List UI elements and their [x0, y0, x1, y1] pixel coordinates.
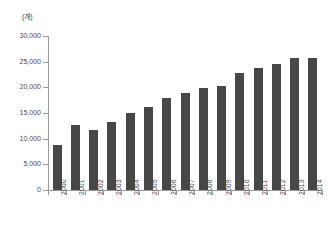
x-axis-tick-label: 2010 — [243, 179, 250, 195]
y-axis-tick-label: 10,000 — [1, 135, 41, 142]
x-axis-tick-label: 2008 — [206, 179, 213, 195]
y-axis-tick-label-wrap: 25,000 — [0, 58, 41, 66]
bar — [162, 98, 171, 190]
y-axis-tick-label-wrap: 5,000 — [0, 160, 41, 168]
bar — [144, 107, 153, 190]
x-axis-tick-label: 2013 — [298, 179, 305, 195]
bar — [217, 86, 226, 190]
bar — [308, 58, 317, 190]
y-axis-tick-label-wrap: 0 — [0, 186, 41, 194]
bar — [181, 93, 190, 190]
bar — [290, 58, 299, 190]
x-axis-tick-label: 2012 — [279, 179, 286, 195]
y-axis-tick-label-wrap: 30,000 — [0, 32, 41, 40]
bar — [272, 64, 281, 190]
y-axis-tick-label: 30,000 — [1, 32, 41, 39]
x-axis-tick-label: 2004 — [133, 179, 140, 195]
x-axis-tick-label: 2002 — [97, 179, 104, 195]
x-axis-tick-label: 2001 — [78, 179, 85, 195]
bar — [254, 68, 263, 190]
x-axis-tick-label: 2000 — [60, 179, 67, 195]
plot-area — [48, 36, 322, 190]
bar — [235, 73, 244, 190]
x-axis-tick-label: 2014 — [316, 179, 323, 195]
y-axis-tick-label-wrap: 15,000 — [0, 109, 41, 117]
y-axis-tick-label-wrap: 20,000 — [0, 83, 41, 91]
x-axis-tick-label: 2003 — [115, 179, 122, 195]
x-axis-tick-label: 2011 — [261, 180, 268, 195]
y-axis-tick-label: 20,000 — [1, 83, 41, 90]
x-axis-tick — [158, 191, 159, 195]
x-axis-tick-label: 2005 — [151, 179, 158, 195]
x-axis-tick — [85, 191, 86, 195]
bar — [199, 88, 208, 190]
bar-chart: (개) 30,00025,00020,00015,00010,0005,0000… — [0, 0, 331, 230]
y-axis-unit-label: (개) — [22, 11, 33, 21]
y-axis-tick-label: 15,000 — [1, 109, 41, 116]
x-axis-tick — [48, 191, 49, 195]
x-axis-tick-label: 2009 — [225, 179, 232, 195]
y-axis-tick-label: 0 — [1, 186, 41, 193]
y-axis-tick-label-wrap: 10,000 — [0, 135, 41, 143]
x-axis-tick-label: 2006 — [170, 179, 177, 195]
y-axis-tick-label: 5,000 — [1, 160, 41, 167]
y-axis-tick-label: 25,000 — [1, 58, 41, 65]
x-axis-tick-label: 2007 — [188, 179, 195, 195]
